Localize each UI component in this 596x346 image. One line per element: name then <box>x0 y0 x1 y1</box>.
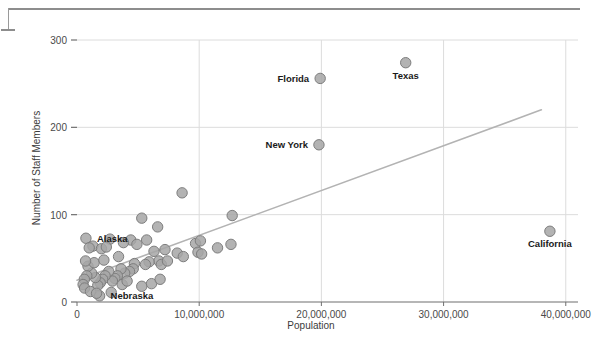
data-point <box>99 255 109 265</box>
x-tick-label: 10,000,000 <box>174 309 224 320</box>
point-label-new-york: New York <box>266 139 309 150</box>
data-point <box>132 239 142 249</box>
y-axis-title: Number of Staff Members <box>31 111 42 225</box>
data-point <box>113 251 123 261</box>
y-tick-label: 0 <box>61 297 67 308</box>
data-point <box>212 243 222 253</box>
data-point <box>91 288 101 298</box>
x-tick-label: 20,000,000 <box>296 309 346 320</box>
data-point <box>545 226 555 236</box>
data-point <box>226 239 236 249</box>
data-points <box>78 58 555 302</box>
data-point <box>314 140 324 150</box>
data-point <box>149 246 159 256</box>
data-point <box>155 274 165 284</box>
x-tick-label: 40,000,000 <box>541 309 591 320</box>
point-label-texas: Texas <box>393 70 419 81</box>
data-point <box>137 213 147 223</box>
data-point <box>196 249 206 259</box>
y-tick-label: 200 <box>50 122 67 133</box>
y-tick-labels: 0100200300 <box>50 35 67 308</box>
point-label-florida: Florida <box>277 73 309 84</box>
data-point <box>160 244 170 254</box>
data-point <box>162 256 172 266</box>
data-point <box>178 251 188 261</box>
data-point <box>84 243 94 253</box>
data-point <box>177 188 187 198</box>
data-point <box>122 276 132 286</box>
trendline <box>77 110 541 280</box>
data-point <box>401 58 411 68</box>
point-label-california: California <box>528 238 573 249</box>
data-point <box>315 73 325 83</box>
x-tick-label: 0 <box>74 309 80 320</box>
data-point <box>195 236 205 246</box>
data-point <box>140 259 150 269</box>
point-label-alaska: Alaska <box>97 233 128 244</box>
data-point <box>227 210 237 220</box>
trendline-segment <box>77 110 541 280</box>
data-point <box>80 256 90 266</box>
x-axis-title: Population <box>287 320 334 331</box>
scatter-plot: 010,000,00020,000,00030,000,00040,000,00… <box>0 0 596 346</box>
point-label-nebraska: Nebraska <box>111 290 154 301</box>
data-point <box>141 235 151 245</box>
data-point <box>152 222 162 232</box>
y-tick-label: 100 <box>50 210 67 221</box>
chart-figure: 010,000,00020,000,00030,000,00040,000,00… <box>0 0 596 346</box>
x-tick-labels: 010,000,00020,000,00030,000,00040,000,00… <box>74 309 591 320</box>
x-tick-label: 30,000,000 <box>419 309 469 320</box>
y-tick-label: 300 <box>50 35 67 46</box>
